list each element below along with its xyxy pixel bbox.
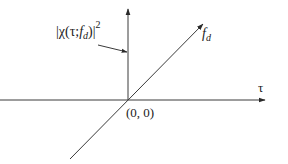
ambiguity-function-label: |χ(τ;fd)|2: [56, 19, 101, 41]
doppler-axis: [70, 24, 203, 159]
ambiguity-axes-diagram: |χ(τ;fd)|2 fd τ (0, 0): [0, 0, 288, 164]
label-pointer-arrow: [98, 45, 127, 52]
doppler-axis-label: fd: [202, 26, 212, 43]
tau-axis-label: τ: [258, 80, 263, 95]
origin-label: (0, 0): [126, 105, 154, 120]
